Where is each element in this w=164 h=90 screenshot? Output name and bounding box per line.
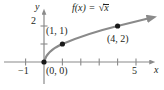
- x-axis-label: x: [154, 65, 158, 75]
- radical-symbol: √x: [98, 3, 109, 13]
- function-title-text: f(x) =: [72, 2, 98, 13]
- point-marker-origin: [41, 59, 46, 64]
- point-marker-four-two: [115, 23, 120, 28]
- point-label-one-one: (1, 1): [46, 26, 68, 36]
- y-axis-label: y: [35, 2, 39, 12]
- plot-canvas: [0, 0, 164, 90]
- x-tick-label-5: 5: [132, 66, 137, 76]
- point-label-four-two: (4, 2): [107, 34, 129, 44]
- radical-overbar: [103, 4, 109, 5]
- function-graph-figure: f(x) = √x y x 2 −1 5 (0, 0) (1, 1) (4, 2…: [0, 0, 164, 90]
- x-tick-label-neg1: −1: [18, 66, 29, 76]
- point-label-origin: (0, 0): [46, 66, 68, 76]
- function-title: f(x) = √x: [72, 3, 109, 13]
- point-marker-one-one: [60, 41, 65, 46]
- y-tick-label-2: 2: [31, 16, 36, 26]
